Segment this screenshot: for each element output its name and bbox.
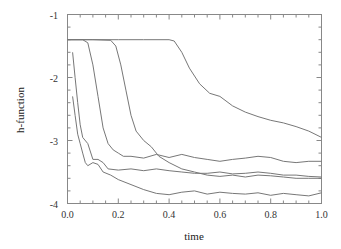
y-tick-label: -4 (50, 199, 58, 210)
line-chart: 0.00.20.40.60.81.0 -1-2-3-4 time h-funct… (0, 0, 341, 249)
x-tick-label: 0.0 (61, 209, 74, 220)
x-axis-tick-labels: 0.00.20.40.60.81.0 (61, 209, 328, 220)
x-tick-label: 0.8 (264, 209, 277, 220)
y-tick-label: -3 (50, 136, 58, 147)
x-tick-label: 0.6 (214, 209, 227, 220)
y-tick-label: -1 (50, 10, 58, 21)
y-axis-label: h-function (14, 87, 26, 133)
series-line-curve-3 (68, 40, 322, 163)
data-series (68, 40, 322, 196)
x-tick-label: 0.4 (163, 209, 176, 220)
series-line-curve-1 (68, 40, 322, 138)
plot-area (68, 15, 322, 204)
y-axis-tick-labels: -1-2-3-4 (50, 10, 58, 210)
x-tick-label: 0.2 (112, 209, 125, 220)
x-axis-label: time (184, 230, 204, 242)
y-tick-label: -2 (50, 73, 58, 84)
x-tick-label: 1.0 (315, 209, 328, 220)
